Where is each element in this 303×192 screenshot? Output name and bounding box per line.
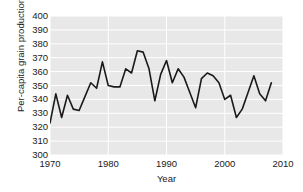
x-tick-label: 2010 <box>263 158 303 169</box>
x-tick-label: 2000 <box>205 158 245 169</box>
x-axis-label: Year <box>50 173 283 184</box>
x-axis-ticks: 19701980199020002010 <box>0 0 303 192</box>
x-tick-label: 1990 <box>147 158 187 169</box>
chart-figure: Per-capita grain production (kg) 4003903… <box>0 0 303 192</box>
x-tick-label: 1970 <box>30 158 70 169</box>
x-tick-label: 1980 <box>88 158 128 169</box>
